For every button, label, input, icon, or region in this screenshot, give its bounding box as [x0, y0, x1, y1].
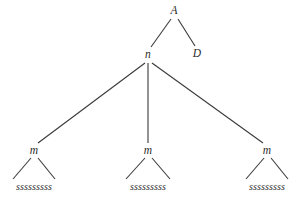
node-D: D: [193, 48, 202, 60]
edge-A-D: [178, 19, 195, 46]
edge-m3-right: [271, 158, 288, 179]
node-m-right: m: [263, 145, 272, 157]
node-n: n: [145, 49, 151, 61]
edge-m2-right: [152, 158, 170, 179]
edge-m1-left: [13, 158, 31, 179]
edge-m1-right: [38, 158, 55, 179]
terminal-leaf-right: sssssssss: [249, 182, 285, 192]
syntax-tree-diagram: A n D m m m sssssssss sssssssss ssssssss…: [0, 0, 296, 202]
terminal-leaf-middle: sssssssss: [130, 182, 166, 192]
edge-n-m-left: [38, 63, 145, 143]
node-m-middle: m: [144, 145, 153, 157]
edge-A-n: [151, 19, 171, 47]
edge-m3-left: [246, 158, 264, 179]
tree-edges-layer: [0, 0, 296, 202]
edge-n-m-right: [152, 63, 263, 143]
node-m-left: m: [30, 145, 39, 157]
node-root-A: A: [170, 5, 177, 17]
edge-m2-left: [126, 158, 145, 179]
terminal-leaf-left: sssssssss: [16, 182, 52, 192]
